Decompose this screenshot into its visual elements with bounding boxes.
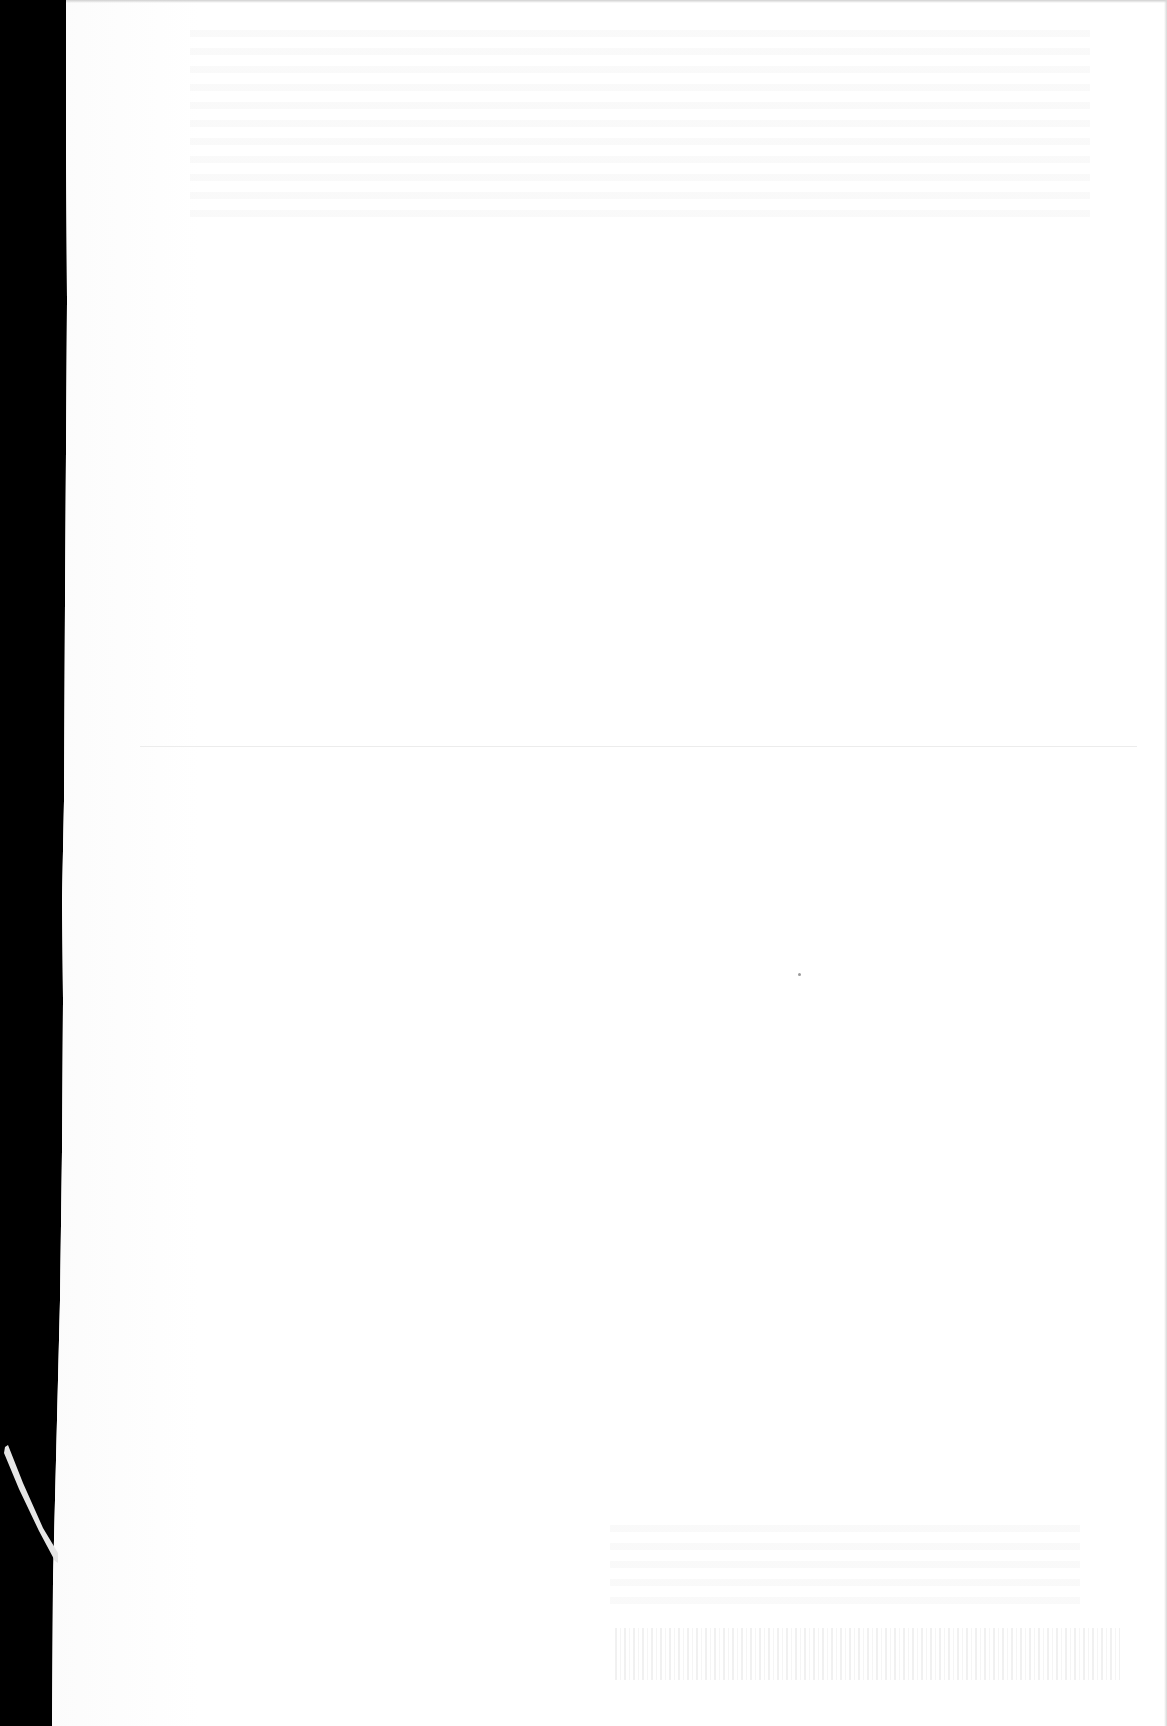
blank-paper-page xyxy=(0,0,1167,1726)
scanned-document xyxy=(0,0,1167,1726)
show-through-text-top xyxy=(190,30,1090,220)
torn-paper-edge-icon xyxy=(3,1443,58,1563)
show-through-text-bottom xyxy=(610,1525,1080,1605)
dust-speck xyxy=(798,973,801,976)
page-top-edge-shadow xyxy=(66,0,1167,3)
page-fold-line xyxy=(140,746,1137,747)
show-through-barcode xyxy=(615,1628,1120,1680)
